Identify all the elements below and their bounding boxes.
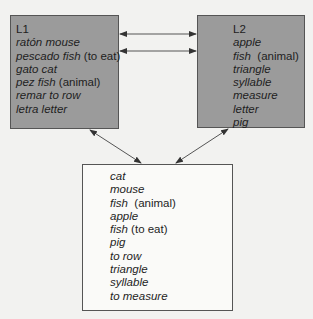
l2-entry: fish (animal) bbox=[233, 50, 304, 63]
l2-entry: letter bbox=[233, 103, 304, 116]
l1-lexicon-box: L1 ratón mouse pescado fish (to eat) gat… bbox=[10, 15, 119, 129]
concept-entry: cat bbox=[110, 170, 232, 183]
l2-entry: measure bbox=[233, 89, 304, 102]
l2-entry: apple bbox=[233, 36, 304, 49]
concepts-box: cat mouse fish (animal) apple fish (to e… bbox=[82, 164, 233, 311]
arrow-l2-concepts bbox=[176, 129, 228, 163]
concept-entry: apple bbox=[110, 210, 232, 223]
l2-entry: pig bbox=[233, 116, 304, 129]
l2-entry: syllable bbox=[233, 76, 304, 89]
concept-entry: to measure bbox=[110, 290, 232, 303]
concept-entry: mouse bbox=[110, 183, 232, 196]
concept-entry: pig bbox=[110, 236, 232, 249]
concept-entry: to row bbox=[110, 250, 232, 263]
concept-entry: fish (to eat) bbox=[110, 223, 232, 236]
l2-entry: triangle bbox=[233, 63, 304, 76]
l1-entry: gato cat bbox=[16, 63, 118, 76]
concept-entry: triangle bbox=[110, 263, 232, 276]
l1-entry: pez fish (animal) bbox=[16, 76, 118, 89]
l1-entry: remar to row bbox=[16, 89, 118, 102]
l1-entry: letra letter bbox=[16, 103, 118, 116]
l1-title: L1 bbox=[16, 23, 118, 36]
l2-title: L2 bbox=[233, 23, 304, 36]
l1-entry: pescado fish (to eat) bbox=[16, 50, 118, 63]
concept-entry: fish (animal) bbox=[110, 197, 232, 210]
l2-lexicon-box: L2 apple fish (animal) triangle syllable… bbox=[197, 15, 305, 128]
arrow-l1-concepts bbox=[90, 130, 141, 163]
l1-entry: ratón mouse bbox=[16, 36, 118, 49]
concept-entry: syllable bbox=[110, 276, 232, 289]
